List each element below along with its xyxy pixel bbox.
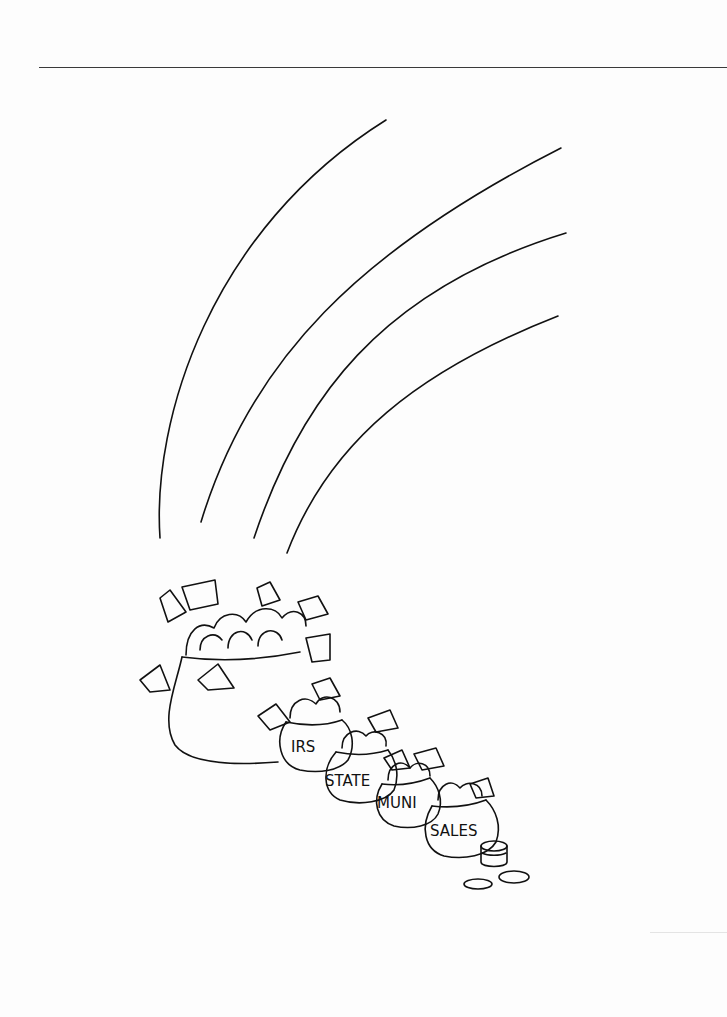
pot-label-sales: SALES [430,822,477,840]
tax-cartoon-illustration: IRS STATE MUNI SALES [0,0,727,1017]
big-pot-of-money [140,580,330,763]
pot-label-state: STATE [325,772,370,790]
pot-label-muni: MUNI [377,794,417,812]
coins [464,841,529,889]
page: IRS STATE MUNI SALES [0,0,727,1017]
pot-label-irs: IRS [291,738,315,756]
rainbow-arcs [159,120,566,553]
pot-muni: MUNI [377,748,444,828]
pot-irs: IRS [258,678,352,772]
